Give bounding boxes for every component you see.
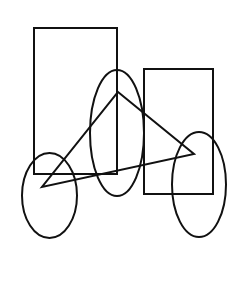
right-ellipse — [172, 132, 226, 237]
left-ellipse — [22, 153, 77, 238]
left-rectangle — [34, 28, 117, 174]
geometric-shapes-diagram — [0, 0, 241, 282]
